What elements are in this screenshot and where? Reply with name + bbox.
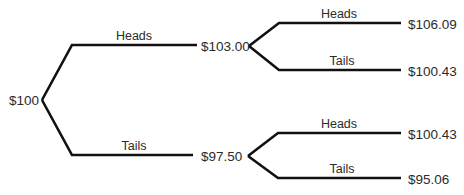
- branch-root-tails: [42, 100, 193, 155]
- edge-label-tails-tails: Tails: [329, 162, 354, 176]
- branch-heads-heads: [249, 23, 401, 46]
- branch-tails-tails: [248, 156, 401, 178]
- edge-label-heads-heads: Heads: [321, 7, 357, 21]
- leaf-tails-tails-value: $95.06: [408, 172, 449, 187]
- leaf-heads-heads-value: $106.09: [408, 17, 457, 32]
- binomial-tree-diagram: $100 Heads Tails $103.00 $97.50 Heads Ta…: [0, 0, 464, 195]
- branch-heads-tails: [249, 46, 401, 70]
- edge-label-root-tails: Tails: [121, 139, 146, 153]
- leaf-heads-tails-value: $100.43: [408, 64, 457, 79]
- leaf-tails-heads-value: $100.43: [408, 127, 457, 142]
- edge-label-tails-heads: Heads: [321, 117, 357, 131]
- node-tails-value: $97.50: [201, 149, 242, 164]
- edge-label-heads-tails: Tails: [329, 54, 354, 68]
- root-node-value: $100: [9, 93, 39, 108]
- edge-label-root-heads: Heads: [116, 29, 152, 43]
- node-heads-value: $103.00: [201, 39, 250, 54]
- branch-tails-heads: [248, 133, 401, 156]
- branch-root-heads: [42, 45, 197, 100]
